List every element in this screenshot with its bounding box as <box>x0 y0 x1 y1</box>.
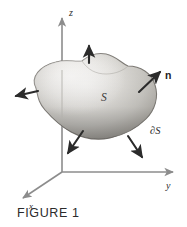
normal-arrow-lower-right <box>128 136 142 157</box>
normal-vector-label-n: n <box>165 69 171 81</box>
boundary-label-dS: ∂S <box>150 125 161 136</box>
y-axis-label: y <box>165 180 171 191</box>
surface-label-S: S <box>101 91 107 103</box>
normal-arrow-left <box>16 91 38 96</box>
figure-diagram-canvas: z y x S ∂S n <box>0 0 187 227</box>
figure-caption: FIGURE 1 <box>17 206 79 220</box>
figure-1-container: z y x S ∂S n FIGURE 1 <box>0 0 187 227</box>
z-axis-label: z <box>68 7 73 18</box>
x-axis-line <box>23 172 62 198</box>
surface-blob <box>34 53 156 139</box>
